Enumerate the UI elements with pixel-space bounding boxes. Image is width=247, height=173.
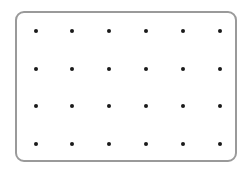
grid-dot	[34, 29, 38, 33]
grid-dot	[107, 104, 111, 108]
grid-dot	[144, 142, 148, 146]
grid-dot	[70, 142, 74, 146]
grid-dot	[70, 104, 74, 108]
grid-dot	[181, 142, 185, 146]
grid-dot	[218, 142, 222, 146]
grid-dot	[70, 29, 74, 33]
grid-dot	[144, 104, 148, 108]
grid-dot	[144, 67, 148, 71]
grid-dot	[34, 67, 38, 71]
grid-dot	[70, 67, 74, 71]
grid-dot	[218, 29, 222, 33]
grid-dot	[107, 142, 111, 146]
dot-grid-board	[15, 11, 237, 162]
grid-dot	[144, 29, 148, 33]
grid-dot	[181, 67, 185, 71]
grid-dot	[218, 104, 222, 108]
grid-dot	[34, 142, 38, 146]
grid-dot	[107, 29, 111, 33]
grid-dot	[181, 104, 185, 108]
grid-dot	[107, 67, 111, 71]
grid-dot	[181, 29, 185, 33]
grid-dot	[218, 67, 222, 71]
grid-dot	[34, 104, 38, 108]
